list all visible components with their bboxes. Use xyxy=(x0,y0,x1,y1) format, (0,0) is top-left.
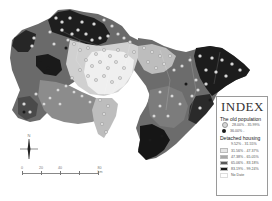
light-circle-icon xyxy=(222,122,228,128)
legend-label: 47.38% - 65.05% xyxy=(231,155,259,159)
scale-label: 40 xyxy=(58,166,62,170)
legend-label: 83.19% - 99.24% xyxy=(231,167,259,171)
swatch-icon xyxy=(220,167,228,171)
scale-label: 0 xyxy=(21,166,23,170)
legend-old-population-item: 36.00% - xyxy=(220,128,264,134)
swatch-icon xyxy=(220,148,228,152)
legend-label: 65.06% - 83.18% xyxy=(231,161,259,165)
scale-tick xyxy=(41,171,42,175)
north-label: N xyxy=(28,133,31,138)
legend-label: 28.00% - 35.99% xyxy=(232,123,260,127)
legend-title: INDEX xyxy=(221,100,264,114)
dark-circle-icon xyxy=(222,129,226,133)
scale-label: 80 km xyxy=(98,166,103,174)
scale-label: 20 xyxy=(39,166,43,170)
swatch-icon xyxy=(220,173,228,177)
north-arrow-icon: N xyxy=(18,132,40,162)
swatch-icon xyxy=(220,155,228,159)
legend-label: 31.56% - 47.37% xyxy=(231,149,259,153)
scale-bar: 0 20 40 80 km xyxy=(22,166,102,178)
legend-label: 9.52% - 31.55% xyxy=(231,142,257,146)
legend-old-population-heading: The old population xyxy=(220,116,264,122)
legend-detached-housing-heading: Detached housing xyxy=(220,135,264,141)
legend-label: No Date xyxy=(231,173,244,177)
swatch-icon xyxy=(220,161,228,165)
legend-housing-item: No Date xyxy=(220,172,264,178)
scale-tick xyxy=(22,171,23,175)
scale-tick xyxy=(60,171,61,175)
swatch-icon xyxy=(220,142,228,146)
legend-label: 36.00% - xyxy=(230,129,244,133)
map-legend: INDEX The old population 28.00% - 35.99%… xyxy=(216,96,268,196)
western-landmass xyxy=(10,9,140,138)
scale-tick xyxy=(79,171,80,175)
